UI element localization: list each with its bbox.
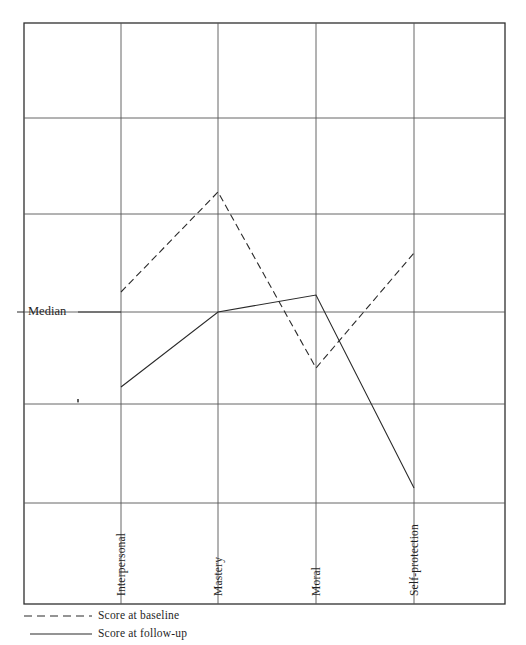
y-axis-tick-label-median: Median: [28, 304, 66, 319]
series-line-score-at-baseline: [121, 192, 414, 368]
legend-label-score-at-follow-up: Score at follow-up: [98, 627, 187, 639]
vertical-gridlines: [121, 23, 414, 604]
figure-container: Median Interpersonal Mastery Moral Self-…: [0, 0, 526, 645]
line-chart: [0, 0, 526, 645]
x-axis-label-mastery: Mastery: [212, 557, 224, 596]
x-axis-label-self-protection: Self-protection: [408, 524, 420, 596]
plot-frame: [24, 23, 505, 604]
legend-label-score-at-baseline: Score at baseline: [98, 609, 179, 621]
x-axis-label-interpersonal: Interpersonal: [115, 533, 127, 596]
horizontal-gridlines: [24, 118, 505, 503]
print-artifact-dot: [77, 399, 79, 402]
series-line-score-at-follow-up: [121, 295, 414, 488]
x-axis-label-moral: Moral: [310, 567, 322, 596]
